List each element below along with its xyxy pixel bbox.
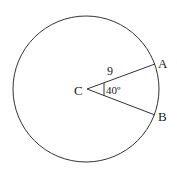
circle: [13, 16, 159, 162]
label-c: C: [74, 83, 83, 98]
label-b: B: [158, 109, 167, 124]
label-radius: 9: [107, 64, 113, 78]
radius-cb: [87, 89, 155, 115]
radius-ca: [87, 64, 155, 89]
circle-diagram: C A B 9 40º: [0, 0, 177, 175]
label-a: A: [158, 56, 168, 71]
label-angle: 40º: [106, 84, 121, 96]
